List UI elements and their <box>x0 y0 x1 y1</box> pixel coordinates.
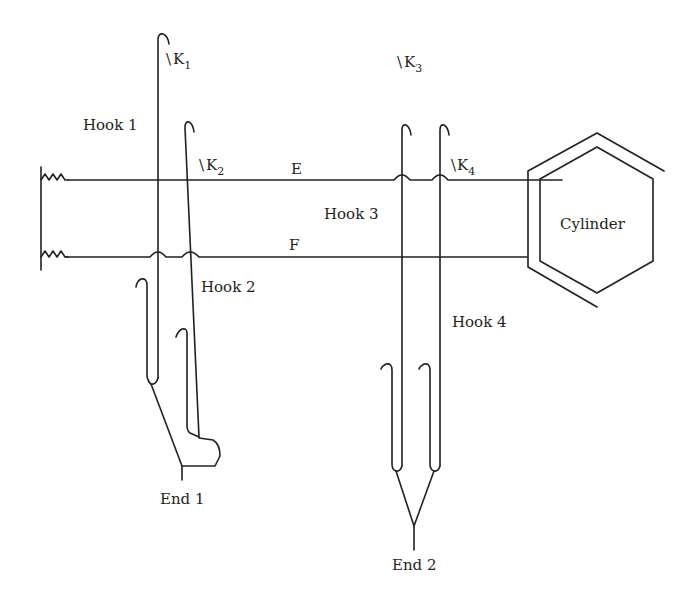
label-needle-f: F <box>289 236 299 254</box>
label-knife-k2: \K2 <box>199 156 224 178</box>
label-hook2: Hook 2 <box>201 278 256 296</box>
jacquard-diagram: Hook 1 Hook 2 Hook 3 Hook 4 End 1 End 2 … <box>0 0 695 596</box>
hook-2 <box>176 122 199 437</box>
label-hook4: Hook 4 <box>452 313 507 331</box>
end-2-connector <box>396 471 434 550</box>
needle-e <box>68 175 562 180</box>
label-knife-k1: \K1 <box>166 50 191 72</box>
label-hook3: Hook 3 <box>324 205 379 223</box>
spring-frame <box>41 167 68 270</box>
end-1-connector <box>151 384 220 480</box>
spring-icon-upper <box>41 174 68 180</box>
label-end2: End 2 <box>392 556 437 574</box>
label-cylinder: Cylinder <box>560 215 626 233</box>
label-end1: End 1 <box>160 490 205 508</box>
label-knife-k3: \K3 <box>397 53 422 75</box>
label-needle-e: E <box>291 160 302 178</box>
hook-1 <box>136 34 169 384</box>
label-knife-k4: \K4 <box>451 156 475 178</box>
spring-icon-lower <box>41 251 68 257</box>
label-hook1: Hook 1 <box>83 116 138 134</box>
